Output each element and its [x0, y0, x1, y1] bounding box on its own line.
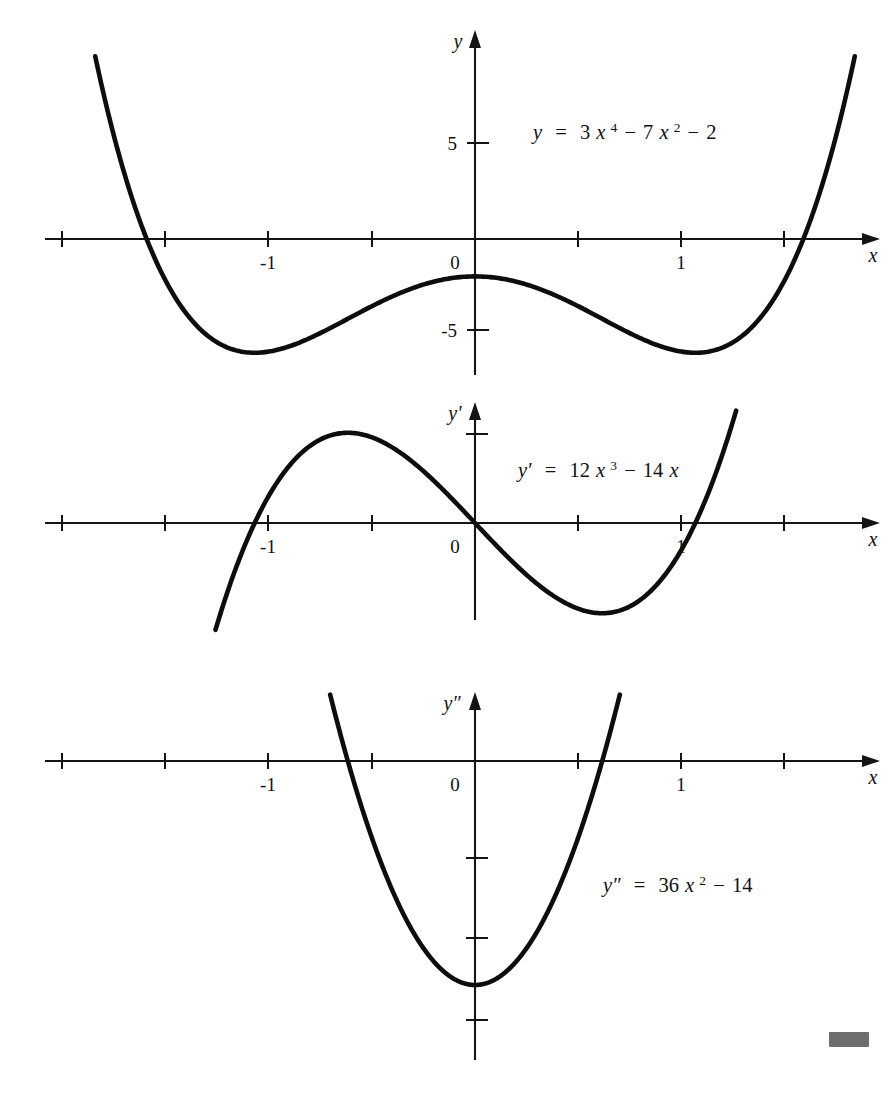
panel-y-xtick-label-one: 1 [676, 252, 686, 273]
panel-yprime-y-axis-arrow [469, 402, 481, 420]
panel-yprime-xtick-label-neg1: -1 [260, 536, 276, 557]
panel-y-y-axis-arrow [469, 30, 481, 48]
panel-y-xtick-label-zero: 0 [450, 252, 460, 273]
panel-y-ytick-label-negfive: -5 [441, 320, 457, 341]
panel-yprime-xtick-label-zero: 0 [450, 536, 460, 557]
panel-y: -1 0 1 5 -5 y x y = 3 x 4 − 7 x 2 − 2 [45, 30, 880, 375]
panel-ydoubleprime-y-ticks [466, 858, 488, 1020]
page-corner-marker [829, 1032, 869, 1047]
panel-y-y-ticks [467, 143, 489, 330]
panel-yprime: -1 0 1 y′ x y′ = 12 x 3 − 14 x [45, 402, 880, 630]
math-figure-triptych: -1 0 1 5 -5 y x y = 3 x 4 − 7 x 2 − 2 [0, 0, 895, 1094]
panel-yprime-equation: y′ = 12 x 3 − 14 x [516, 452, 679, 482]
panel-ydoubleprime-equation: y″ = 36 x 2 − 14 [601, 867, 752, 897]
panel-y-xtick-label-neg1: -1 [260, 252, 276, 273]
panel-ydoubleprime-xtick-label-neg1: -1 [260, 774, 276, 795]
panel-ydoubleprime-xtick-label-one: 1 [676, 774, 686, 795]
panel-y-ytick-label-five: 5 [448, 133, 458, 154]
panel-y-axis-label-y: y [452, 30, 463, 53]
panel-ydoubleprime-xtick-label-zero: 0 [450, 774, 460, 795]
panel-yprime-axis-label-y: y′ [446, 402, 462, 425]
panel-ydoubleprime: -1 0 1 y″ x y″ = 36 x 2 − 14 [45, 692, 880, 1060]
panel-ydoubleprime-axis-label-x: x [868, 766, 878, 788]
panel-y-axis-label-x: x [868, 244, 878, 266]
panel-ydoubleprime-axis-label-y: y″ [441, 692, 461, 715]
panel-ydoubleprime-y-axis-arrow [469, 692, 481, 710]
panel-yprime-axis-label-x: x [868, 528, 878, 550]
panel-y-equation: y = 3 x 4 − 7 x 2 − 2 [531, 114, 717, 144]
